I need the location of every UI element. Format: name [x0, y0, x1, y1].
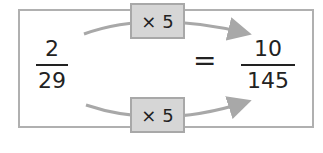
right-fraction: 10 145	[241, 36, 295, 94]
left-fraction: 2 29	[36, 36, 68, 94]
left-denominator: 29	[38, 68, 66, 94]
fraction-bar	[36, 64, 68, 66]
equals-sign: =	[193, 44, 216, 77]
top-multiplier-box: × 5	[130, 3, 185, 39]
left-numerator: 2	[45, 36, 59, 62]
right-numerator: 10	[254, 36, 282, 62]
right-denominator: 145	[247, 68, 289, 94]
fraction-bar	[241, 64, 295, 66]
bottom-multiplier-box: × 5	[130, 97, 185, 133]
